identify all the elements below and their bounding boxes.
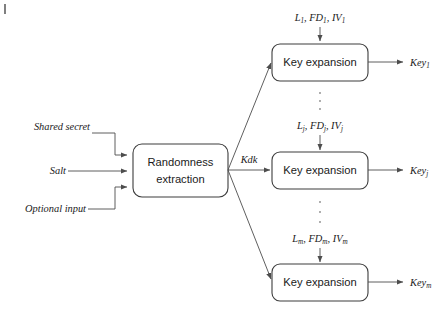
key-expansion-label-3: Key expansion xyxy=(283,276,356,288)
key-sub-1: 1 xyxy=(426,62,430,70)
param-label-row-2: Lj, FDj, IVj xyxy=(296,120,343,133)
param-FD-base-3: FD xyxy=(307,233,322,244)
fanout-to-expansion-bottom xyxy=(228,170,271,279)
randomness-extraction-label-line2: extraction xyxy=(156,173,205,185)
key-sub-3: m xyxy=(426,282,431,290)
vertical-ellipsis-bottom xyxy=(319,201,321,223)
param-IV-sub-3: m xyxy=(343,238,348,246)
vertical-ellipsis-top xyxy=(319,92,321,110)
input-label-salt: Salt xyxy=(50,165,67,176)
input-connector-optional-input xyxy=(88,187,127,209)
input-label-optional-input: Optional input xyxy=(25,203,87,214)
key-sub-2: j xyxy=(425,170,428,178)
key-expansion-label-2: Key expansion xyxy=(283,164,356,176)
input-label-shared-secret: Shared secret xyxy=(34,121,91,132)
key-base-3: Key xyxy=(409,277,427,288)
key-expansion-label-1: Key expansion xyxy=(283,56,356,68)
output-label-key-1: Key1 xyxy=(409,57,430,70)
kdk-label: Kdk xyxy=(240,154,258,165)
param-IV-sub-1: 1 xyxy=(342,17,346,25)
param-label-row-3: Lm, FDm, IVm xyxy=(291,233,347,246)
diagram-canvas: Shared secret Salt Optional input Random… xyxy=(0,0,444,312)
key-base-1: Key xyxy=(409,57,427,68)
input-connector-shared-secret xyxy=(92,133,127,155)
randomness-extraction-label-line1: Randomness xyxy=(148,156,214,168)
key-derivation-diagram: Shared secret Salt Optional input Random… xyxy=(0,0,444,312)
key-base-2: Key xyxy=(409,165,427,176)
randomness-extraction-box xyxy=(133,144,228,197)
param-label-row-1: L1, FD1, IV1 xyxy=(294,12,346,25)
param-FD-base-1: FD xyxy=(308,12,323,23)
param-FD-base-2: FD xyxy=(309,120,324,131)
param-IV-sub-2: j xyxy=(340,125,343,133)
output-label-key-2: Keyj xyxy=(409,165,428,178)
output-label-key-3: Keym xyxy=(409,277,431,290)
